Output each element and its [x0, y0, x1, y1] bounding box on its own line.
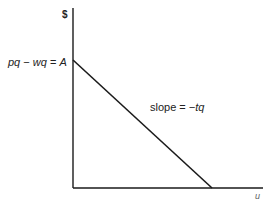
- slope-value: −tq: [189, 101, 205, 113]
- intercept-wq: wq: [33, 56, 47, 68]
- intercept-a: A: [59, 56, 66, 68]
- slope-label: slope = −tq: [150, 101, 204, 113]
- y-axis-label: $: [62, 9, 68, 21]
- x-axis-label: u: [255, 190, 260, 201]
- budget-line: [73, 60, 212, 188]
- intercept-label: pq − wq = A: [8, 56, 67, 68]
- slope-text: slope =: [150, 101, 189, 113]
- intercept-pq: pq: [8, 56, 20, 68]
- intercept-equals: =: [47, 56, 60, 68]
- diagram-canvas: [0, 0, 274, 201]
- intercept-minus: −: [20, 56, 33, 68]
